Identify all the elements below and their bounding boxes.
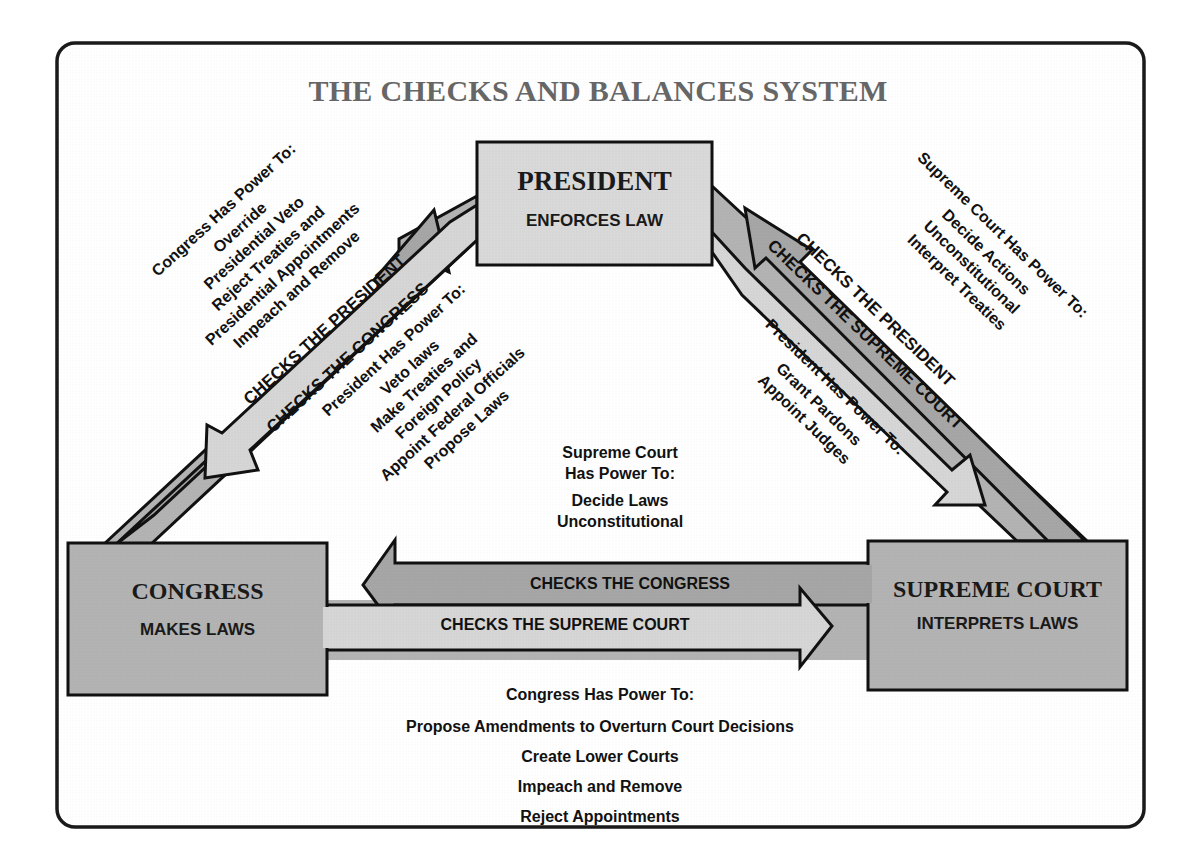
powers-heading-line1: Supreme Court: [520, 442, 720, 463]
supreme-court-role: INTERPRETS LAWS: [868, 614, 1127, 634]
power-item: Reject Appointments: [300, 802, 900, 832]
label-court-checks-congress: CHECKS THE CONGRESS: [395, 575, 865, 593]
powers-heading-line2: Has Power To:: [520, 463, 720, 484]
power-item: Propose Amendments to Overturn Court Dec…: [300, 712, 900, 742]
congress-role: MAKES LAWS: [68, 620, 327, 640]
powers-heading: Congress Has Power To:: [300, 680, 900, 710]
power-item: Unconstitutional: [520, 511, 720, 532]
label-congress-checks-court: CHECKS THE SUPREME COURT: [330, 616, 800, 634]
congress-name: CONGRESS: [68, 578, 327, 605]
president-role: ENFORCES LAW: [477, 211, 712, 231]
court-powers-over-congress: Supreme Court Has Power To: Decide Laws …: [520, 442, 720, 532]
president-name: PRESIDENT: [477, 166, 712, 197]
power-item: Decide Laws: [520, 490, 720, 511]
checks-and-balances-diagram: THE CHECKS AND BALANCES SYSTEM PRESIDENT…: [0, 0, 1196, 863]
power-item: Create Lower Courts: [300, 742, 900, 772]
diagram-title: THE CHECKS AND BALANCES SYSTEM: [0, 74, 1196, 108]
power-item: Impeach and Remove: [300, 772, 900, 802]
supreme-court-name: SUPREME COURT: [868, 576, 1127, 603]
congress-powers-over-court: Congress Has Power To: Propose Amendment…: [300, 680, 900, 832]
congress-box: [68, 543, 327, 695]
